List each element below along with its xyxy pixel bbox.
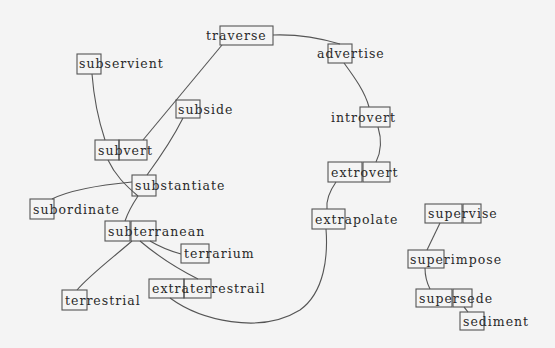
- word-label: traverse: [206, 28, 267, 43]
- edge-substantiate-subordinate: [52, 182, 132, 199]
- edge-introvert-extrovert: [376, 127, 380, 162]
- word-label: subordinate: [33, 202, 120, 217]
- node-subservient: subservient: [77, 54, 164, 74]
- edge-advertise-introvert: [344, 63, 369, 107]
- word-label: superimpose: [410, 252, 502, 267]
- word-label: supervise: [428, 206, 498, 221]
- node-sediment: sediment: [460, 312, 529, 330]
- word-label: advertise: [317, 46, 385, 61]
- node-extrovert: extrovert: [328, 162, 398, 182]
- node-subvert: subvert: [95, 140, 153, 160]
- edge-supersede-sediment: [464, 307, 468, 312]
- edge-supervise-superimpose: [427, 223, 440, 250]
- word-label: extrapolate: [315, 212, 398, 227]
- edge-traverse-advertise: [273, 35, 340, 44]
- word-network-diagram: traversesubservientadvertisesubvertsubsi…: [0, 0, 555, 348]
- edge-extraterrestrail-extrapolate: [170, 229, 327, 323]
- word-label: terrestrial: [65, 293, 141, 308]
- node-supervise: supervise: [425, 204, 498, 223]
- node-subterranean: subterranean: [105, 221, 205, 241]
- word-label: introvert: [331, 110, 396, 125]
- edges-layer: [52, 35, 468, 323]
- word-label: extrovert: [331, 165, 398, 180]
- word-label: supersede: [419, 291, 493, 306]
- node-supersede: supersede: [416, 289, 493, 307]
- node-introvert: introvert: [331, 107, 396, 127]
- nodes-layer: traversesubservientadvertisesubvertsubsi…: [30, 26, 529, 330]
- word-label: subside: [178, 102, 233, 117]
- edge-subvert-substantiate: [108, 160, 138, 196]
- node-traverse: traverse: [206, 26, 273, 45]
- node-advertise: advertise: [317, 44, 385, 63]
- word-label: extraterrestrail: [152, 281, 266, 296]
- node-terrestrial: terrestrial: [62, 290, 141, 310]
- edge-extrovert-extrapolate: [327, 182, 336, 209]
- node-extraterrestrail: extraterrestrail: [149, 279, 266, 298]
- word-label: sediment: [463, 314, 529, 329]
- node-subside: subside: [176, 100, 233, 118]
- edge-substantiate-subterranean: [125, 196, 138, 221]
- edge-superimpose-supersede: [425, 268, 430, 289]
- word-label: subservient: [79, 56, 164, 71]
- word-label: substantiate: [135, 178, 225, 193]
- node-terrarium: terrarium: [181, 244, 255, 263]
- word-label: subterranean: [108, 224, 205, 239]
- node-superimpose: superimpose: [408, 250, 502, 268]
- node-extrapolate: extrapolate: [312, 209, 398, 229]
- word-label: terrarium: [184, 246, 255, 261]
- node-subordinate: subordinate: [30, 199, 120, 219]
- edge-subservient-subvert: [92, 74, 105, 140]
- node-substantiate: substantiate: [132, 175, 225, 196]
- word-label: subvert: [98, 143, 153, 158]
- edge-subterranean-terrestrial: [77, 241, 132, 290]
